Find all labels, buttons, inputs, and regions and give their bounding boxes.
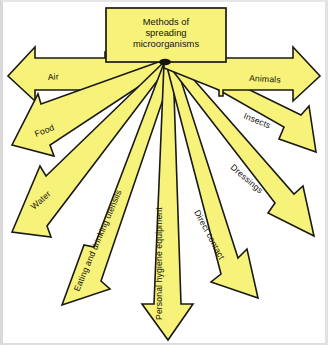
- center-box-title-line-2: spreading: [145, 27, 186, 38]
- diagram-canvas: Air Food Water Eating and drinking utens…: [0, 0, 328, 345]
- center-box[interactable]: Methods of spreading microorganisms: [106, 8, 226, 62]
- center-box-title-line-3: microorganisms: [133, 38, 199, 49]
- convergence-point: [159, 59, 171, 65]
- methods-of-spreading-microorganisms-diagram: Air Food Water Eating and drinking utens…: [0, 0, 328, 345]
- arrow-air-label: Air: [47, 71, 59, 82]
- arrow-animals-label: Animals: [249, 73, 281, 85]
- center-box-title-line-1: Methods of: [143, 16, 190, 27]
- arrow-group: Air Food Water Eating and drinking utens…: [8, 47, 320, 340]
- arrow-personal-hygiene-equipment-label: Personal hygiene equipment: [154, 207, 164, 320]
